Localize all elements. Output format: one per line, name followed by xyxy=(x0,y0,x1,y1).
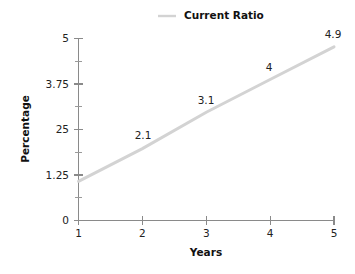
chart-legend: Current Ratio xyxy=(158,9,264,21)
data-label-point-4: 4 xyxy=(266,61,273,73)
x-tick-label-2: 2 xyxy=(139,227,146,239)
x-axis-tick-labels: 1 2 3 4 5 xyxy=(75,227,337,239)
y-axis-title: Percentage xyxy=(19,95,31,163)
chart-canvas: Current Ratio 5 3.75 25 1.25 0 xyxy=(0,0,355,274)
data-label-point-3: 3.1 xyxy=(198,94,215,106)
x-tick-label-4: 4 xyxy=(267,227,274,239)
legend-label-current-ratio: Current Ratio xyxy=(184,9,264,21)
y-tick-label-3-75: 3.75 xyxy=(46,78,69,90)
y-tick-label-0: 0 xyxy=(62,214,69,226)
data-point-labels: 2.1 3.1 4 4.9 xyxy=(135,28,342,141)
y-tick-label-1-25: 1.25 xyxy=(46,169,69,181)
x-tick-label-1: 1 xyxy=(75,227,82,239)
y-tick-label-25: 25 xyxy=(56,123,69,135)
line-chart: Current Ratio 5 3.75 25 1.25 0 xyxy=(0,0,355,274)
data-label-point-2: 2.1 xyxy=(135,129,152,141)
data-label-point-5: 4.9 xyxy=(325,28,342,40)
y-tick-label-5: 5 xyxy=(62,32,69,44)
series-line-current-ratio xyxy=(79,47,335,182)
x-axis-title: Years xyxy=(189,246,222,258)
x-tick-label-5: 5 xyxy=(331,227,338,239)
x-tick-label-3: 3 xyxy=(203,227,210,239)
y-axis-tick-labels: 5 3.75 25 1.25 0 xyxy=(46,32,69,226)
